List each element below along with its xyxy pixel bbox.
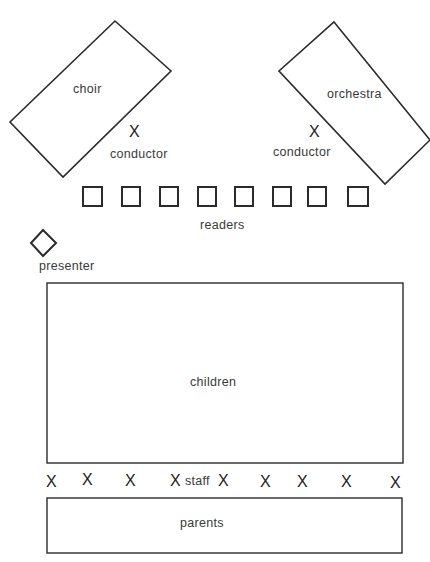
presenter-label: presenter [39,259,95,273]
staff-marker: X [341,474,352,490]
reader-seat [348,187,368,206]
reader-seat [83,187,102,206]
choir-label: choir [73,82,102,96]
readers-label: readers [200,218,244,232]
conductor-marker: X [309,124,320,140]
presenter-diamond-icon [31,230,56,256]
reader-seat [308,187,326,206]
parents-area [47,498,402,553]
reader-seats [83,187,368,206]
staff-marker: X [390,475,401,491]
orchestra-area [279,22,430,184]
stage-layout-diagram [0,0,430,562]
staff-marker: X [82,472,93,488]
children-label: children [190,375,236,389]
conductor-marker: X [129,124,140,140]
children-area [47,283,403,463]
staff-marker: X [297,474,308,490]
staff-marker: X [125,473,136,489]
reader-seat [160,187,178,206]
staff-marker: X [218,473,229,489]
reader-seat [122,187,140,206]
conductor-label: conductor [110,147,168,161]
staff-marker: X [46,474,57,490]
conductor-label: conductor [273,145,331,159]
staff-marker: X [170,473,181,489]
parents-label: parents [180,516,224,530]
reader-seat [235,187,253,206]
orchestra-label: orchestra [327,87,382,101]
reader-seat [273,187,291,206]
staff-marker: X [260,474,271,490]
reader-seat [198,187,216,206]
staff-label: staff [185,474,210,488]
